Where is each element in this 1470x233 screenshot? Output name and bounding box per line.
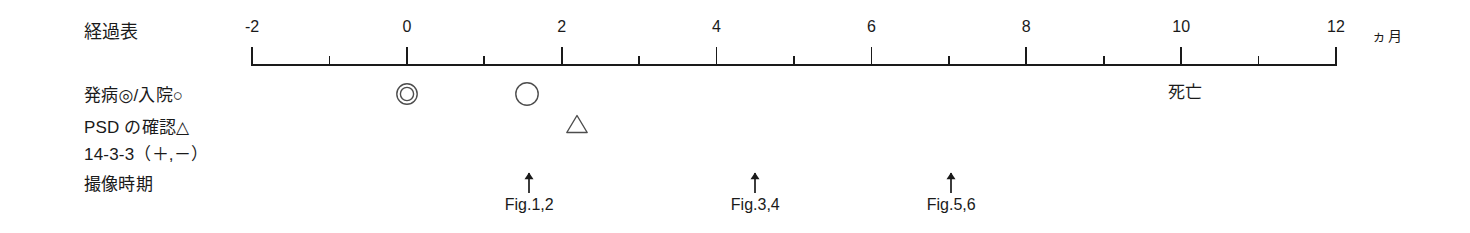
- row-label-protein-14-3-3: 14-3-3（＋,－）: [84, 145, 208, 165]
- axis-tick-9: [1103, 56, 1105, 66]
- axis-tick-8: [1025, 47, 1027, 66]
- axis-tick-label-4: 4: [712, 18, 721, 36]
- axis-tick-0: [406, 47, 408, 66]
- figure-title: 経過表: [84, 22, 139, 42]
- up-arrow-icon: [523, 172, 536, 194]
- row-label-imaging-timing: 撮像時期: [84, 175, 153, 195]
- double-circle-icon: [395, 82, 419, 106]
- axis-tick-7: [948, 56, 950, 66]
- axis-tick-label-0: 0: [402, 18, 411, 36]
- axis-tick-6: [871, 47, 873, 66]
- imaging-arrow-fig-5-6: [945, 172, 958, 194]
- imaging-arrow-fig-3-4: [749, 172, 762, 194]
- row-label-psd-confirmation: PSD の確認△: [84, 118, 189, 138]
- axis-tick-12: [1335, 47, 1337, 66]
- axis-tick-label-12: 12: [1327, 18, 1345, 36]
- onset-double-circle-marker: [395, 82, 419, 106]
- axis-tick-1: [483, 56, 485, 66]
- axis-tick-label--2: -2: [245, 18, 259, 36]
- triangle-icon: [565, 114, 589, 135]
- axis-tick--2: [251, 47, 253, 66]
- axis-tick-4: [716, 47, 718, 66]
- imaging-arrow-fig-1-2: [523, 172, 536, 194]
- up-arrow-icon: [749, 172, 762, 194]
- imaging-caption-fig-3-4: Fig.3,4: [731, 196, 780, 214]
- axis-tick-11: [1258, 56, 1260, 66]
- axis-tick-label-8: 8: [1022, 18, 1031, 36]
- axis-tick-3: [638, 56, 640, 66]
- axis-tick--1: [329, 56, 331, 66]
- circle-icon: [514, 81, 540, 107]
- axis-tick-2: [561, 47, 563, 66]
- clinical-course-timeline-figure: 経過表 発病◎/入院○ PSD の確認△ 14-3-3（＋,－） 撮像時期 -2…: [0, 0, 1470, 233]
- up-arrow-icon: [945, 172, 958, 194]
- admission-circle-marker: [514, 81, 540, 107]
- imaging-caption-fig-5-6: Fig.5,6: [927, 196, 976, 214]
- axis-tick-label-2: 2: [557, 18, 566, 36]
- row-label-onset-admission: 発病◎/入院○: [84, 86, 183, 106]
- axis-tick-10: [1180, 47, 1182, 66]
- death-event-label: 死亡: [1168, 83, 1202, 103]
- psd-triangle-marker: [565, 114, 589, 135]
- axis-tick-5: [793, 56, 795, 66]
- axis-tick-label-10: 10: [1172, 18, 1190, 36]
- imaging-caption-fig-1-2: Fig.1,2: [505, 196, 554, 214]
- axis-tick-label-6: 6: [867, 18, 876, 36]
- axis-unit-label: ヵ月: [1372, 27, 1403, 45]
